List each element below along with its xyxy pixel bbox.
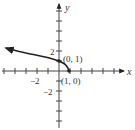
point-label-1-0: (1, 0) [61,76,81,86]
point-1-0 [67,69,71,73]
y-tick-label-neg2: −2 [43,87,53,97]
y-tick-label-2: 2 [50,47,55,57]
graph-canvas: y x 2 −2 −2 (0, 1) (1, 0) [0,0,135,130]
point-label-0-1: (0, 1) [63,54,83,64]
x-tick-label-neg2: −2 [30,76,40,86]
x-axis-label: x [126,66,132,77]
y-axis-label: y [64,2,70,13]
point-0-1 [57,59,61,63]
